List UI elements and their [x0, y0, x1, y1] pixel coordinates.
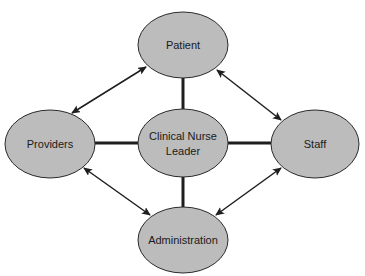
node-administration: Administration — [138, 207, 228, 273]
node-staff-label: Staff — [304, 138, 327, 150]
node-staff: Staff — [271, 110, 359, 178]
node-providers: Providers — [5, 110, 95, 178]
arrow-patient-staff — [217, 70, 281, 120]
node-center-label-line2: Leader — [166, 145, 201, 157]
node-administration-label: Administration — [148, 234, 218, 246]
arrow-providers-administration — [84, 168, 150, 215]
arrow-administration-staff — [216, 168, 281, 215]
node-patient-label: Patient — [166, 39, 200, 51]
clinical-nurse-leader-diagram: Patient Providers Clinical Nurse Leader … — [0, 0, 365, 276]
node-center-label-line1: Clinical Nurse — [149, 130, 217, 142]
node-clinical-nurse-leader: Clinical Nurse Leader — [138, 109, 228, 177]
node-providers-label: Providers — [27, 138, 74, 150]
node-patient: Patient — [138, 12, 228, 78]
arrow-providers-patient — [72, 67, 146, 113]
